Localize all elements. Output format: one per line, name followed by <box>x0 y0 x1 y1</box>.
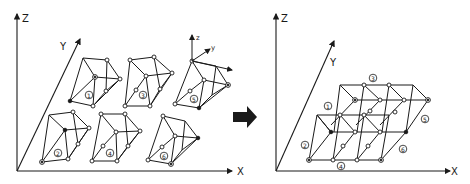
module-label: 3 <box>141 92 145 99</box>
y-axis-label: Y <box>329 57 337 68</box>
truss-module-1: 1 <box>68 58 122 108</box>
right-panel: Z Y X <box>276 13 458 177</box>
label-1: 1 <box>326 103 330 110</box>
global-axes: Z Y <box>17 13 232 171</box>
label-6: 6 <box>401 146 405 153</box>
label-3: 3 <box>371 75 375 82</box>
module-label: 6 <box>162 153 166 160</box>
local-y-label: y <box>211 44 215 52</box>
module-label: 5 <box>192 96 196 103</box>
truss-module-5: 5 z y <box>173 34 232 110</box>
y-axis-label: Y <box>59 41 67 52</box>
truss-module-3: 3 <box>123 55 174 108</box>
assembled-truss <box>307 83 431 162</box>
truss-module-2: 2 <box>40 110 91 164</box>
module-label: 2 <box>56 150 60 157</box>
x-axis-label: X <box>237 166 244 177</box>
assembly-labels: 1 2 3 4 5 6 <box>301 74 429 170</box>
truss-module-6: 6 <box>146 114 200 166</box>
local-z-label: z <box>196 34 200 42</box>
local-axes: z y <box>192 34 232 70</box>
x-axis-label: X <box>451 166 458 177</box>
global-axes: Z Y X <box>276 13 458 177</box>
label-4: 4 <box>339 163 343 170</box>
module-label: 1 <box>87 92 91 99</box>
left-panel: Z Y 1 <box>17 13 232 171</box>
z-axis-label: Z <box>22 13 29 24</box>
module-label: 4 <box>108 150 112 157</box>
diagram-stage: Z Y 1 <box>0 0 470 184</box>
label-5: 5 <box>423 116 427 123</box>
transition-arrow-icon <box>233 106 257 128</box>
truss-module-4: 4 <box>90 112 142 163</box>
z-axis-label: Z <box>281 13 288 24</box>
label-2: 2 <box>303 142 307 149</box>
